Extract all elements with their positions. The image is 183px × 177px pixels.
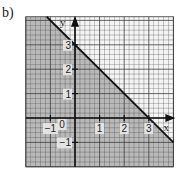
- x-tick-label: −1: [45, 123, 57, 134]
- x-axis-label: x: [163, 121, 169, 133]
- inequality-graph: −1123321−10xy: [0, 0, 183, 177]
- y-tick-label: 3: [65, 40, 71, 51]
- x-tick-label: 1: [97, 123, 103, 134]
- y-tick-label: −1: [60, 137, 72, 148]
- x-tick-label: 3: [146, 123, 152, 134]
- y-axis-label: y: [60, 16, 66, 28]
- y-tick-label: 1: [65, 89, 71, 100]
- y-tick-label: 2: [65, 64, 71, 75]
- x-tick-label: 2: [121, 123, 127, 134]
- origin-label: 0: [59, 119, 65, 130]
